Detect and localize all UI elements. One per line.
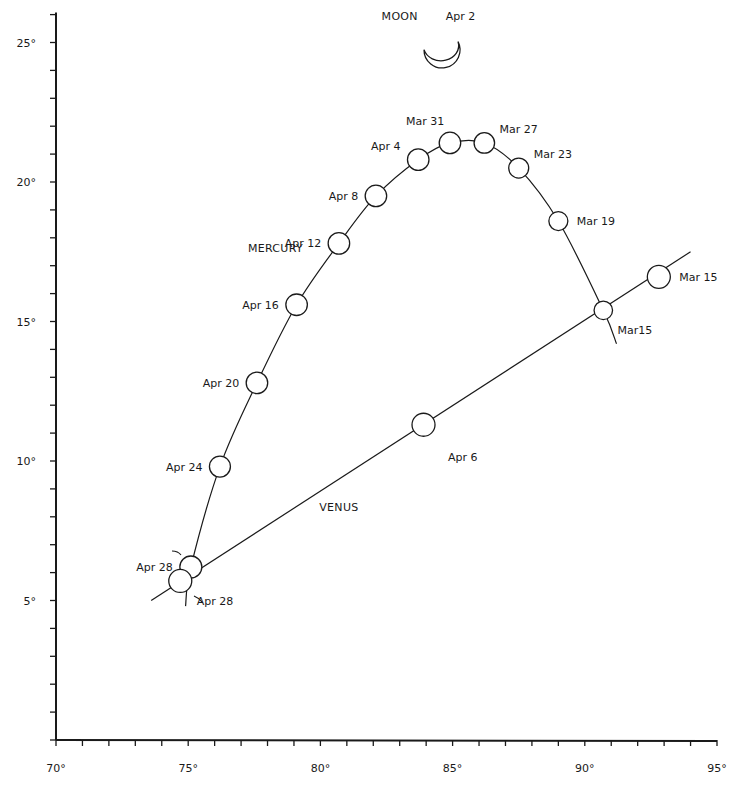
mercury-name-label: MERCURY — [248, 242, 303, 255]
mercury-point-label: Mar 23 — [534, 148, 572, 161]
venus-name-label: VENUS — [319, 501, 358, 514]
mercury-point-label: Apr 8 — [329, 190, 359, 203]
mercury-point-label: Mar 19 — [577, 215, 615, 228]
mercury-point-label: Mar 31 — [406, 115, 444, 128]
crescent-moon-icon — [424, 42, 460, 68]
ephemeris-chart: 70°75°80°85°90°95°5°10°15°20°25°Mar15Mar… — [0, 0, 742, 789]
mercury-point — [246, 372, 268, 394]
x-tick-label: 75° — [178, 762, 198, 775]
mercury-point — [549, 212, 568, 231]
venus-point-label: Apr 6 — [448, 451, 478, 464]
y-tick-label: 5° — [24, 595, 37, 608]
tracks — [151, 140, 690, 606]
y-tick-label: 10° — [17, 455, 37, 468]
mercury-point — [509, 158, 529, 178]
x-tick-label: 70° — [46, 762, 66, 775]
mercury-point — [328, 233, 350, 255]
x-axis — [56, 740, 717, 741]
x-tick-label: 90° — [575, 762, 595, 775]
mercury-point-label: Mar 27 — [500, 123, 538, 136]
y-tick-label: 15° — [17, 316, 37, 329]
y-tick-label: 25° — [17, 37, 37, 50]
moon-date-label: Apr 2 — [446, 10, 476, 23]
mercury-point — [407, 149, 429, 171]
moon-name-label: MOON — [382, 10, 418, 23]
mercury-point-label: Apr 24 — [166, 461, 203, 474]
mercury-point — [209, 456, 230, 477]
axes — [56, 13, 717, 741]
labels: 70°75°80°85°90°95°5°10°15°20°25°Mar15Mar… — [17, 10, 727, 775]
x-tick-label: 85° — [443, 762, 463, 775]
venus-point-label: Mar 15 — [679, 271, 717, 284]
mercury-apr28-leader — [172, 551, 181, 555]
mercury-point — [474, 133, 495, 154]
x-tick-label: 95° — [707, 762, 727, 775]
mercury-point-label: Apr 20 — [203, 377, 240, 390]
mercury-point-label: Apr 4 — [371, 140, 401, 153]
mercury-point — [594, 301, 613, 320]
ticks — [50, 15, 717, 746]
mercury-point-label: Mar15 — [618, 324, 653, 337]
mercury-point-label: Apr 28 — [136, 561, 173, 574]
mercury-point-label: Apr 16 — [242, 299, 279, 312]
mercury-point — [439, 132, 461, 154]
mercury-point — [286, 294, 308, 316]
x-tick-label: 80° — [311, 762, 331, 775]
y-tick-label: 20° — [17, 176, 37, 189]
mercury-point — [365, 185, 387, 207]
venus-point — [412, 413, 435, 436]
venus-point — [647, 265, 670, 288]
